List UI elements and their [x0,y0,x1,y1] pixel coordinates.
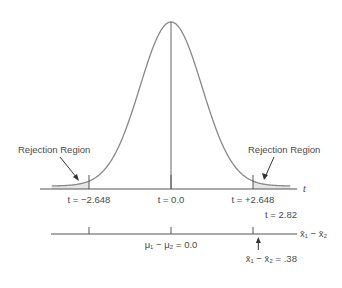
rejection-arrow-left [60,157,77,178]
observed-difference-label: x̄₁ − x̄₂ = .38 [246,253,297,264]
t-axis-label: t [303,183,306,194]
t-distribution-chart: t t = −2.648t = 0.0t = +2.648 Rejection … [0,0,342,288]
arrowhead-right [262,173,268,180]
difference-center-label: μ₁ − μ₂ = 0.0 [145,239,198,250]
arrowhead-left [73,174,79,181]
rejection-label-right: Rejection Region [248,144,320,155]
difference-axis-label: x̄₁ − x̄₂ [300,228,328,239]
observed-arrowhead [256,237,261,243]
t-tick-label: t = +2.648 [232,194,275,205]
t-tick-label: t = −2.648 [68,194,111,205]
t-tick-label: t = 0.0 [158,194,185,205]
rejection-arrow-right [266,157,274,175]
observed-t-label: t = 2.82 [265,209,297,220]
rejection-label-left: Rejection Region [18,144,90,155]
